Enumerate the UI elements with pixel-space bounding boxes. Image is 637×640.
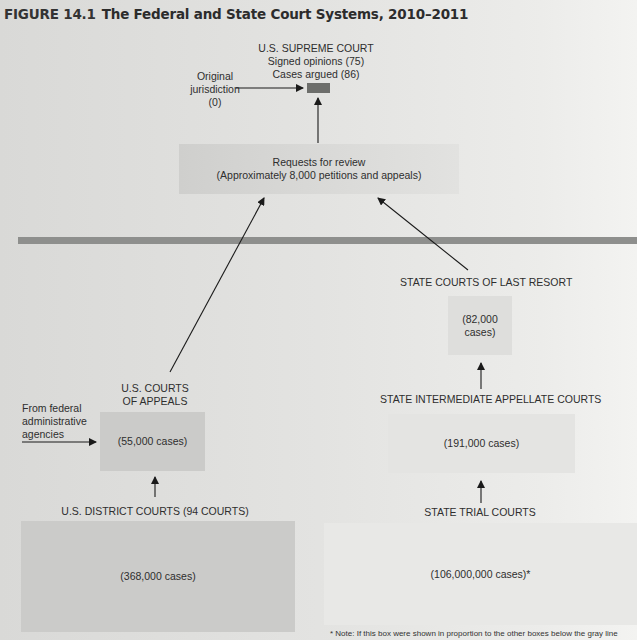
flow-arrows bbox=[0, 0, 637, 640]
arrow-appeals-to-requests bbox=[170, 198, 264, 372]
arrow-last-resort-to-requests bbox=[378, 198, 468, 270]
